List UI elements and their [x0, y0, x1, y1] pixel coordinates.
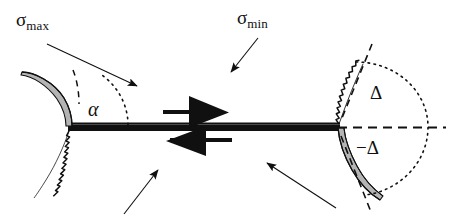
alpha-label: α [88, 99, 99, 119]
dotted-arc-alpha [99, 73, 128, 125]
sigma-min-subscript: min [247, 16, 268, 31]
sigma-min-symbol: σ [237, 7, 247, 28]
delta-positive-label: Δ [370, 83, 382, 102]
sigma-max-leader-arrow [47, 44, 137, 86]
bottom-right-leader-arrow [267, 163, 336, 208]
fracture-diagram: σmax σmin α Δ −Δ [0, 0, 449, 222]
diagram-canvas [0, 0, 449, 222]
sigma-max-subscript: max [26, 18, 49, 33]
bottom-left-leader-arrow [124, 170, 158, 214]
delta-negative-label: −Δ [356, 138, 379, 157]
left-lower-rough-crack-branch [34, 131, 70, 198]
right-upper-rough-crack-branch [336, 60, 363, 124]
left-upper-wing-crack [21, 72, 72, 126]
sigma-max-symbol: σ [16, 9, 26, 30]
sigma-min-leader-arrow [231, 38, 258, 72]
dashed-tangent-left-wing [73, 70, 79, 104]
sigma-min-label: σmin [237, 8, 268, 30]
sigma-max-label: σmax [16, 10, 49, 32]
